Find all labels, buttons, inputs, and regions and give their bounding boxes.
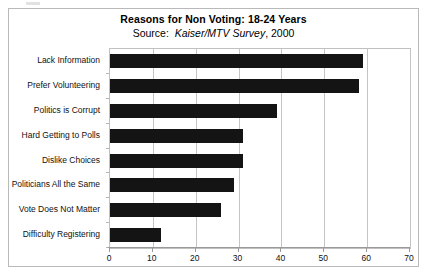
category-label: Vote Does Not Matter: [19, 197, 100, 222]
category-label: Dislike Choices: [42, 148, 100, 173]
chart-subtitle: Source: Kaiser/MTV Survey, 2000: [8, 26, 419, 41]
x-tick: [366, 248, 367, 252]
scan-artifact: [26, 2, 40, 5]
bar-row: [110, 49, 410, 74]
x-axis-tick-marks: [109, 248, 409, 252]
bar-row: [110, 173, 410, 198]
x-tick: [238, 248, 239, 252]
category-label: Lack Information: [37, 48, 100, 73]
plot-area: [109, 48, 411, 249]
gridline: [410, 49, 411, 248]
bar: [110, 154, 243, 168]
bar-row: [110, 99, 410, 124]
category-label: Prefer Volunteering: [27, 73, 100, 98]
x-tick-label: 0: [107, 253, 112, 263]
x-tick-label: 60: [361, 253, 370, 263]
x-tick-label: 50: [319, 253, 328, 263]
category-label: Hard Getting to Polls: [22, 123, 100, 148]
bar-row: [110, 74, 410, 99]
bar: [110, 178, 234, 192]
x-tick-label: 40: [276, 253, 285, 263]
x-tick: [195, 248, 196, 252]
chart-figure: Reasons for Non Voting: 18-24 Years Sour…: [0, 0, 428, 277]
x-tick: [323, 248, 324, 252]
bar-row: [110, 198, 410, 223]
bar-row: [110, 124, 410, 149]
category-label: Politics is Corrupt: [34, 98, 100, 123]
x-tick: [152, 248, 153, 252]
bar: [110, 54, 363, 68]
x-tick-label: 70: [404, 253, 413, 263]
chart-title-block: Reasons for Non Voting: 18-24 Years Sour…: [8, 13, 419, 41]
category-label: Politicians All the Same: [12, 172, 100, 197]
bar-series: [110, 49, 410, 248]
subtitle-prefix: Source:: [133, 27, 175, 39]
subtitle-year: , 2000: [265, 27, 294, 39]
x-axis-tick-labels: 010203040506070: [109, 253, 409, 265]
bar: [110, 203, 221, 217]
x-tick: [280, 248, 281, 252]
x-tick: [109, 248, 110, 252]
category-label: Difficulty Registering: [23, 222, 100, 247]
bar-row: [110, 149, 410, 174]
x-tick: [409, 248, 410, 252]
bar: [110, 79, 359, 93]
subtitle-source: Kaiser/MTV Survey: [175, 27, 265, 39]
x-tick-label: 10: [147, 253, 156, 263]
bar: [110, 104, 277, 118]
x-tick-label: 20: [190, 253, 199, 263]
bar: [110, 129, 243, 143]
chart-title: Reasons for Non Voting: 18-24 Years: [8, 13, 419, 26]
bar: [110, 228, 161, 242]
bar-row: [110, 223, 410, 248]
y-axis-category-labels: Lack InformationPrefer VolunteeringPolit…: [8, 48, 105, 247]
x-tick-label: 30: [233, 253, 242, 263]
